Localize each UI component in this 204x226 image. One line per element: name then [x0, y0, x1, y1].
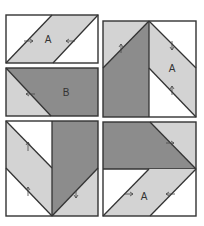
block-top-right: A — [103, 21, 196, 117]
unit-label-a: A — [169, 63, 176, 74]
unit-label-a: A — [45, 34, 52, 45]
unit-label-a: A — [141, 191, 148, 202]
block-b-middle-left: B — [6, 68, 98, 116]
quilt-diagram: A B A — [0, 0, 204, 226]
block-bottom-left — [6, 121, 98, 216]
block-bottom-right: A — [103, 122, 196, 216]
unit-label-b: B — [63, 87, 70, 98]
block-a-top-left: A — [6, 15, 98, 63]
